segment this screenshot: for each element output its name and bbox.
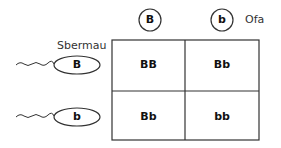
sperm-tail-1: [16, 61, 54, 65]
grid-cell-r2c2: bb: [185, 110, 259, 123]
egg-allele-2: b: [212, 13, 232, 26]
grid-cell-r1c1: BB: [112, 58, 185, 71]
grid-cell-r1c2: Bb: [185, 58, 259, 71]
egg-allele-1: B: [140, 13, 160, 26]
sperm-allele-2: b: [67, 110, 87, 123]
egg-label: Ofa: [245, 13, 264, 26]
sperm-tail-2: [16, 113, 54, 117]
sperm-label: Sbermau: [57, 39, 107, 52]
sperm-allele-1: B: [67, 58, 87, 71]
grid-cell-r2c1: Bb: [112, 110, 185, 123]
